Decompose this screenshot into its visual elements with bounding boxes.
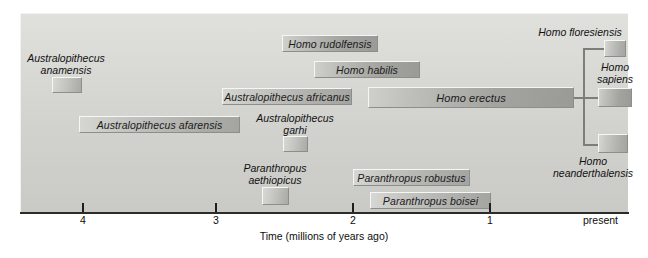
axis-present-label: present: [583, 214, 618, 226]
axis-tick-label-1: 1: [487, 214, 493, 226]
axis-title: Time (millions of years ago): [0, 230, 648, 242]
bar-paranthropus-robustus: Paranthropus robustus: [353, 169, 470, 186]
connector-to-neanderthalensis: [583, 144, 599, 146]
bar-homo-rudolfensis: Homo rudolfensis: [282, 35, 378, 52]
bar-australopithecus-afarensis: Australopithecus afarensis: [79, 116, 240, 133]
bar-homo-neanderthalensis: [598, 134, 628, 153]
label-homo-sapiens: Homo sapiens: [591, 61, 639, 85]
label-australopithecus-anamensis: Australopithecus anamensis: [24, 52, 108, 76]
connector-erectus-trunk: [573, 97, 599, 99]
bar-australopithecus-africanus: Australopithecus africanus: [222, 88, 352, 105]
axis-tick-label-2: 2: [350, 214, 356, 226]
bar-australopithecus-anamensis: [52, 77, 82, 93]
hominin-timeline-figure: Australopithecus anamensis Australopithe…: [0, 0, 648, 258]
bar-homo-floresiensis: [604, 40, 626, 57]
bar-paranthropus-boisei: Paranthropus boisei: [370, 192, 491, 209]
axis-tick-label-3: 3: [213, 214, 219, 226]
time-axis-line: [20, 212, 629, 214]
label-paranthropus-aethiopicus: Paranthropus aethiopicus: [230, 162, 320, 186]
label-homo-floresiensis: Homo floresiensis: [528, 26, 632, 38]
axis-tick-3: [215, 203, 217, 212]
bar-australopithecus-garhi: [283, 136, 308, 152]
axis-tick-1: [489, 203, 491, 212]
label-australopithecus-garhi: Australopithecus garhi: [250, 112, 340, 136]
bar-homo-erectus: Homo erectus: [368, 87, 574, 108]
bar-homo-sapiens: [598, 88, 632, 107]
connector-vertical-trunk: [583, 48, 585, 146]
axis-tick-4: [82, 203, 84, 212]
bar-homo-habilis: Homo habilis: [314, 61, 420, 78]
axis-tick-label-4: 4: [80, 214, 86, 226]
bar-paranthropus-aethiopicus: [262, 187, 289, 205]
axis-tick-2: [352, 203, 354, 212]
connector-to-floresiensis: [583, 48, 605, 50]
label-homo-neanderthalensis: Homo neanderthalensis: [541, 155, 645, 179]
